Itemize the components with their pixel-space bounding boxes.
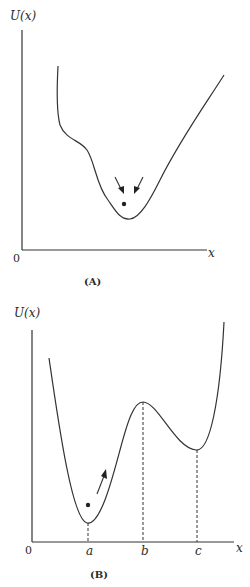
- tick-label-c: c: [195, 544, 202, 558]
- particle-dot-a: [122, 202, 126, 206]
- origin-label-a: 0: [13, 252, 20, 265]
- up-slope-arrow-icon: [97, 469, 107, 494]
- y-axis-label-b: U(x): [14, 306, 41, 320]
- tick-label-a: a: [86, 544, 93, 558]
- panel-b: U(x) 0 x a b c (B): [14, 306, 243, 580]
- caption-b: (B): [90, 569, 108, 580]
- tick-label-b: b: [141, 544, 149, 558]
- inward-arrow-left-icon: [115, 177, 124, 194]
- potential-curve-b: [49, 322, 224, 523]
- inward-arrow-right-icon: [134, 177, 143, 194]
- potential-energy-diagrams: U(x) 0 x (A) U(x) 0 x a b c: [0, 0, 250, 587]
- potential-curve-a: [57, 66, 224, 219]
- x-axis-label-a: x: [208, 246, 215, 260]
- x-axis-label-b: x: [236, 541, 243, 555]
- panel-a: U(x) 0 x (A): [10, 9, 224, 287]
- particle-dot-b: [86, 503, 90, 507]
- caption-a: (A): [84, 276, 101, 287]
- y-axis-label-a: U(x): [10, 9, 37, 23]
- origin-label-b: 0: [25, 544, 32, 557]
